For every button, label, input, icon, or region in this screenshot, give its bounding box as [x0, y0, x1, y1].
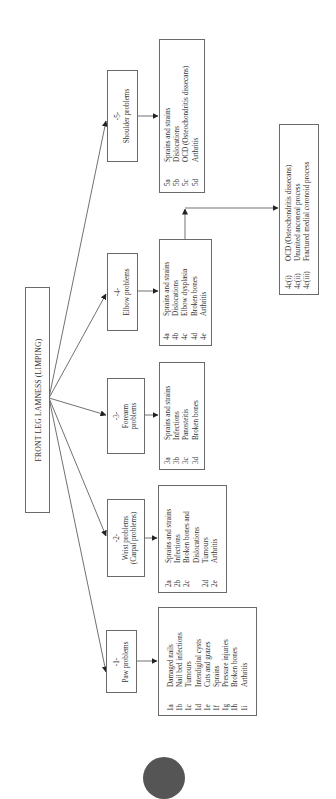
list-item: 3aSprains and strains	[164, 368, 173, 464]
category-box-wrist: -2- Wrist problems (Carpal problems)	[107, 499, 145, 577]
category-label: (Carpal problems)	[130, 512, 139, 565]
list-item: 1hBroken bones	[231, 613, 240, 711]
category-box-forearm: -3- Forearm problems	[107, 378, 145, 454]
list-item: 4eArthritis	[199, 246, 208, 340]
list-item: 5aSprains and strains	[164, 46, 173, 186]
list-item: 4c(i)OCD (Osteochondritis dissecans)	[285, 131, 294, 289]
category-number: -5-	[114, 89, 123, 144]
list-item: 4cElbow dysplasia	[181, 246, 190, 340]
list-item: 1dInterdigital cysts	[194, 613, 203, 711]
main-title-box: FRONT LEG LAMNESS (LIMPING)	[25, 287, 50, 513]
list-item: 2dTumours	[202, 491, 211, 587]
list-item: 1cTumours	[184, 613, 193, 711]
category-label: Forearm	[122, 403, 131, 430]
list-box-wrist: 2aSprains and strains 2bInfections 2cBro…	[158, 485, 227, 593]
list-item: 4bDislocations	[172, 246, 181, 340]
category-number: -3-	[113, 403, 122, 430]
list-item: 5cOCD (Osteochondritis dissecans)	[182, 46, 191, 186]
list-box-paw: 1aDamaged nails 1bNail bed infections 1c…	[158, 607, 257, 716]
list-item: 5dArthritis	[191, 46, 200, 186]
list-item: 4aSprains and strains	[162, 246, 171, 340]
list-item: 3bInfections	[173, 368, 182, 464]
category-label: Paw problems	[122, 641, 131, 682]
category-label: Elbow problems	[123, 268, 132, 315]
category-label: Wrist problems	[122, 512, 131, 565]
list-item: 4c(ii)Ununited anconeal process	[294, 131, 303, 289]
category-number: -2-	[113, 512, 122, 565]
list-item: 5bDislocations	[173, 46, 182, 186]
list-item: 1bNail bed infections	[175, 613, 184, 711]
category-box-shoulder: -5- Shoulder problems	[107, 70, 138, 162]
category-box-elbow: -4- Elbow problems	[107, 253, 138, 331]
list-item: 1fSprains	[212, 613, 221, 711]
list-box-shoulder: 5aSprains and strains 5bDislocations 5cO…	[159, 39, 205, 193]
list-item: 1gPressure injuries	[221, 613, 230, 711]
list-item: 4c(iii)Fractured medial coronoid process	[304, 131, 313, 289]
category-label: problems	[130, 403, 139, 430]
list-box-elbow: 4aSprains and strains 4bDislocations 4cE…	[159, 239, 212, 346]
main-title: FRONT LEG LAMNESS (LIMPING)	[33, 339, 42, 462]
list-item: Dislocations	[193, 491, 202, 587]
list-item: 1iArthritis	[240, 613, 249, 711]
category-label: Shoulder problems	[123, 89, 132, 144]
list-item: 4dBroken bones	[190, 246, 199, 340]
list-box-forearm: 3aSprains and strains 3bInfections 3cPan…	[159, 362, 205, 470]
list-item: 3cPanosteitis	[182, 368, 191, 464]
list-item: 3dBroken bones	[191, 368, 200, 464]
list-item: 2eArthritis	[211, 491, 220, 587]
sub-list-box-elbow-dysplasia: 4c(i)OCD (Osteochondritis dissecans) 4c(…	[279, 124, 319, 295]
list-item: 1eCuts and grazes	[203, 613, 212, 711]
category-number: -1-	[113, 641, 122, 682]
list-item: 2cBroken bones and	[183, 491, 192, 587]
category-number: -4-	[114, 268, 123, 315]
list-item: 1aDamaged nails	[166, 613, 175, 711]
category-box-paw: -1- Paw problems	[106, 630, 137, 693]
page-marker-circle	[143, 757, 185, 799]
list-item: 2bInfections	[174, 491, 183, 587]
list-item: 2aSprains and strains	[165, 491, 174, 587]
